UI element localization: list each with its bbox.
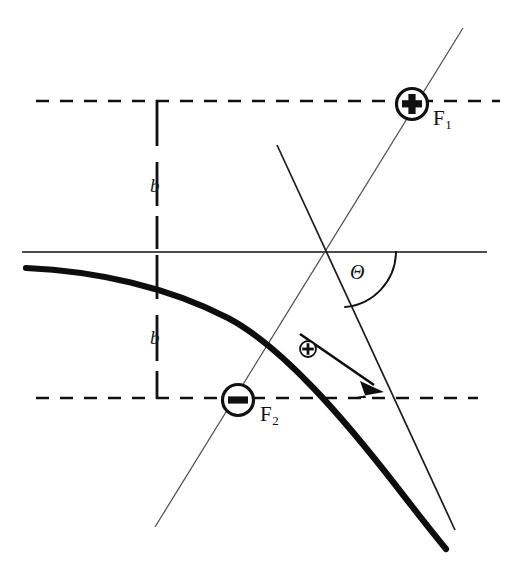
velocity-arrow-head [351, 381, 384, 398]
focus-one-label: F1 [433, 108, 452, 131]
moving-charge-marker [300, 341, 316, 357]
scattering-angle-label: Θ [350, 262, 364, 282]
focus-two-label-subscript: 2 [272, 413, 279, 428]
diagram-canvas [0, 0, 523, 566]
focus-one-marker [397, 89, 428, 120]
minus-icon-bar [228, 396, 248, 403]
focus-one-label-subscript: 1 [445, 117, 452, 132]
focus-two-label-text: F [260, 402, 272, 426]
small-plus-icon-vertical-bar [307, 343, 310, 355]
impact-parameter-label-lower: b [150, 328, 160, 347]
impact-parameter-label-upper: b [150, 176, 160, 195]
scattering-diagram-figure: b b F1 F2 Θ [0, 0, 523, 566]
focus-two-label: F2 [260, 404, 279, 427]
focus-one-label-text: F [433, 106, 445, 130]
focus-two-marker [223, 385, 254, 416]
plus-icon-vertical-bar [408, 94, 415, 114]
